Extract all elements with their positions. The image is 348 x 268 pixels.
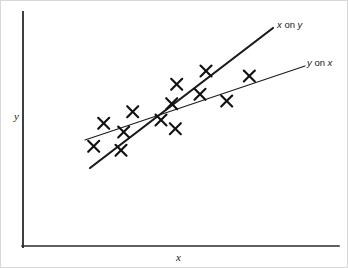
- data-point-marker: [156, 115, 167, 126]
- x-axis-label: x: [176, 252, 181, 263]
- data-point-marker: [116, 145, 127, 156]
- data-point-marker: [127, 106, 138, 117]
- y-on-x-var2: x: [328, 57, 333, 68]
- axes-group: [22, 12, 339, 247]
- line-label-x-on-y: x on y: [277, 20, 302, 30]
- data-point-marker: [171, 79, 182, 90]
- regression-line-y-on-x: [85, 66, 305, 140]
- line-label-y-on-x: y on x: [307, 58, 332, 68]
- data-point-marker: [201, 66, 212, 77]
- plot-canvas: [1, 1, 348, 268]
- scatter-plot-figure: y x x on y y on x: [0, 0, 348, 268]
- x-on-y-var2: y: [298, 19, 303, 30]
- data-point-marker: [170, 123, 181, 134]
- data-point-marker: [221, 96, 232, 107]
- x-on-y-op: on: [282, 19, 298, 30]
- data-point-marker: [244, 71, 255, 82]
- y-axis-label: y: [14, 111, 19, 122]
- data-point-marker: [195, 89, 206, 100]
- y-on-x-op: on: [312, 57, 328, 68]
- data-point-marker: [98, 118, 109, 129]
- data-point-marker: [118, 127, 129, 138]
- data-point-marker: [88, 141, 99, 152]
